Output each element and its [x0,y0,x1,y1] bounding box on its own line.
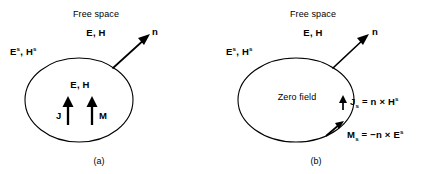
surface-current-ms-arrow [326,121,344,136]
scattered-h-superscript-b: s [249,45,253,52]
panel-a: Free space E, H Es, Hs n E, H J M (a) [0,0,217,174]
ms-cross-operator: × [382,129,393,140]
js-equals: = [359,96,370,107]
ms-equals: = [359,129,370,140]
normal-vector-label-a: n [152,27,158,37]
normal-vector-arrow-b [333,34,369,68]
ms-rhs-superscript: s [400,128,404,135]
panel-a-graphics [0,0,217,174]
normal-vector-arrow-a [113,34,150,68]
ms-symbol: M [347,129,355,140]
equivalence-theorem-figure: Free space E, H Es, Hs n E, H J M (a) [0,0,434,174]
equation-ms: Ms = −n × Es [347,130,404,140]
closed-surface-ellipse-a [25,58,133,142]
scattered-h-symbol-a: H [26,46,33,57]
panel-b: Free space E, H Es, Hs n Zero field Js =… [217,0,434,174]
equation-js: Js = n × Hs [350,97,399,107]
scattered-h-superscript-a: s [33,45,37,52]
panel-caption-b: (b) [311,157,322,166]
scattered-field-label-b: Es, Hs [226,47,253,57]
interior-field-label-a: E, H [70,80,89,90]
panel-b-graphics [217,0,434,174]
js-cross-operator: × [377,96,388,107]
exterior-field-label-a: E, H [86,28,105,38]
current-m-arrow-a [87,96,98,125]
scattered-field-label-a: Es, Hs [10,47,37,57]
free-space-label-a: Free space [73,10,119,19]
exterior-field-label-b: E, H [303,28,322,38]
panel-caption-a: (a) [94,157,105,166]
surface-current-js-arrow [339,95,347,110]
current-m-label-a: M [99,111,107,121]
scattered-h-symbol-b: H [242,46,249,57]
current-j-label-a: J [56,111,61,121]
normal-vector-label-b: n [372,27,378,37]
js-rhs-superscript: s [395,95,399,102]
current-j-arrow-a [63,96,74,125]
free-space-label-b: Free space [290,10,336,19]
zero-field-label: Zero field [278,93,317,102]
